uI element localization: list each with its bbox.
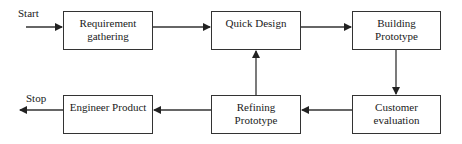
node-refining-prototype: Refining Prototype [211,95,301,134]
stop-label: Stop [26,92,46,104]
node-quick-design: Quick Design [211,11,301,50]
node-requirement-gathering: Requirement gathering [63,11,153,50]
node-label: Building Prototype [367,17,427,43]
node-label: Refining Prototype [226,101,286,127]
node-engineer-product: Engineer Product [63,95,153,134]
node-label: Engineer Product [70,101,147,114]
node-label: Customer evaluation [367,101,427,127]
node-building-prototype: Building Prototype [352,11,441,50]
start-label: Start [18,7,39,19]
node-label: Quick Design [226,17,287,30]
node-customer-evaluation: Customer evaluation [352,95,441,134]
node-label: Requirement gathering [73,17,143,43]
